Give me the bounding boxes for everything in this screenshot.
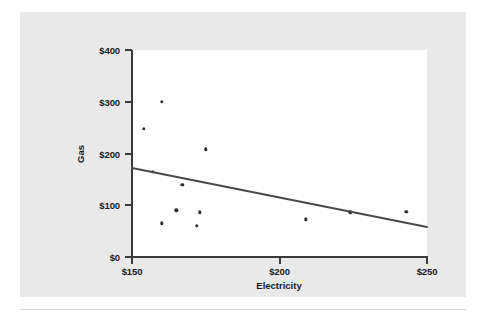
x-tick-label: $250: [417, 266, 438, 277]
y-tick-100: [125, 204, 132, 206]
y-tick-label: $200: [99, 148, 120, 159]
x-tick-250: [426, 257, 428, 264]
x-tick-200: [279, 257, 281, 264]
x-tick-label: $200: [269, 266, 290, 277]
y-tick-label: $100: [99, 200, 120, 211]
x-axis-title: Electricity: [256, 280, 301, 291]
y-tick-300: [125, 101, 132, 103]
y-tick-label: $400: [99, 45, 120, 56]
y-tick-label: $0: [110, 252, 120, 263]
y-axis-title: Gas: [75, 145, 86, 163]
y-tick-label: $300: [99, 96, 120, 107]
y-tick-200: [125, 153, 132, 155]
x-tick-label: $150: [122, 266, 143, 277]
plot-area: [132, 50, 427, 257]
chart-figure-panel: $0$100$200$300$400 $150$200$250 Gas Elec…: [20, 12, 466, 297]
y-tick-400: [125, 49, 132, 51]
x-tick-150: [131, 257, 133, 264]
bottom-divider-rule: [20, 309, 466, 310]
